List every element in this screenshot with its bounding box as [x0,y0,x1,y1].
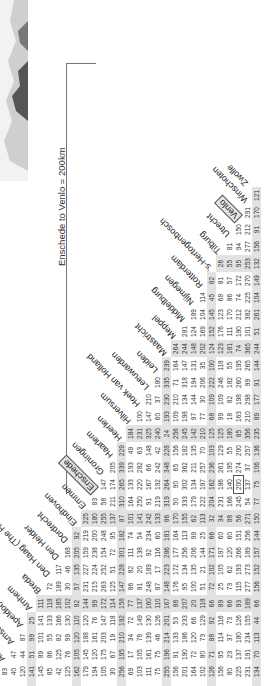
distance-cell: 149 [135,612,144,629]
distance-cell: 101 [243,323,252,340]
distance-cell: 318 [180,374,189,391]
distance-cell: 44 [18,646,27,663]
distance-cell: 141 [135,510,144,527]
distance-cell: 17 [126,646,135,663]
distance-cell: 162 [72,663,81,680]
distance-cell: 99 [216,408,225,425]
distance-cell: 103 [207,442,216,459]
distance-cell: 30 [63,578,72,595]
distance-cell: 147 [117,578,126,595]
distance-cell: 180 [234,629,243,646]
distance-cell: 129 [198,612,207,629]
distance-cell: 106 [252,459,261,476]
distance-cell: 55 [225,357,234,374]
distance-cell: 89 [216,595,225,612]
distance-cell: 88 [225,510,234,527]
distance-cell: 189 [243,544,252,561]
distance-cell: 105 [135,646,144,663]
distance-cell: 242 [144,510,153,527]
distance-cell: 235 [252,425,261,442]
distance-cell: 80 [198,646,207,663]
distance-cell: 172 [171,561,180,578]
distance-cell: 72 [108,544,117,561]
distance-cell: 182 [180,442,189,459]
distance-cell: 291 [243,204,252,221]
distance-cell: 81 [216,272,225,289]
distance-cell: 233 [180,612,189,629]
distance-cell: 203 [99,629,108,646]
distance-cell: 177 [252,391,261,408]
distance-cell: 20 [135,561,144,578]
distance-cell: 160 [144,595,153,612]
distance-cell: 180 [90,510,99,527]
distance-cell: 137 [243,476,252,493]
distance-cell: 82 [207,272,216,289]
distance-cell: 120 [225,544,234,561]
distance-cell: 71 [207,646,216,663]
distance-cell: 248 [99,527,108,544]
distance-cell: 156 [216,663,225,680]
distance-cell: 225 [81,510,90,527]
distance-cell: 99 [189,527,198,544]
distance-cell: 99 [90,595,99,612]
distance-cell: 257 [198,459,207,476]
distance-cell: 211 [108,493,117,510]
distance-cell: 97 [189,408,198,425]
distance-cell: 154 [99,544,108,561]
distance-cell: 192 [117,612,126,629]
distance-cell: 175 [99,646,108,663]
distance-cell: 65 [171,459,180,476]
distance-cell: 189 [144,561,153,578]
distance-cell: 114 [216,629,225,646]
distance-cell: 120 [189,629,198,646]
distance-cell: 131 [189,357,198,374]
distance-cell: 186 [180,629,189,646]
distance-cell: 148 [162,578,171,595]
distance-cell: 55 [225,255,234,272]
distance-cell: 72 [189,646,198,663]
distance-cell: 120 [90,646,99,663]
distance-cell: 124 [207,340,216,357]
distance-cell: 100 [189,578,198,595]
distance-cell: 24 [162,425,171,442]
distance-cell: 60 [216,527,225,544]
distance-cell: 271 [243,510,252,527]
distance-cell: 109 [171,408,180,425]
distance-cell: 231 [81,578,90,595]
distance-cell: 193 [234,561,243,578]
distance-cell: 265 [243,357,252,374]
distance-cell: 156 [252,578,261,595]
distance-cell: 242 [153,459,162,476]
distance-cell: 21 [198,561,207,578]
distance-cell: 152 [207,323,216,340]
distance-cell: 51 [108,561,117,578]
distance-cell: 189 [189,306,198,323]
distance-cell: 67 [108,646,117,663]
distance-cell: 176 [216,323,225,340]
distance-cell: 225 [234,663,243,680]
distance-cell: 103 [135,663,144,680]
distance-cell: 149 [252,272,261,289]
distance-cell: 155 [180,510,189,527]
distance-cell: 219 [153,493,162,510]
distance-cell: 57 [72,578,81,595]
distance-cell: 66 [207,527,216,544]
distance-cell: 17 [153,561,162,578]
distance-cell: 81 [135,578,144,595]
distance-cell: 277 [243,238,252,255]
distance-cell: 93 [234,595,243,612]
distance-cell: 114 [108,595,117,612]
distance-cell: 248 [144,578,153,595]
distance-cell: 46 [63,561,72,578]
distance-cell: 118 [45,595,54,612]
distance-cell: 111 [126,544,135,561]
distance-cell: 83 [0,663,9,680]
distance-cell: 229 [117,442,126,459]
distance-cell: 156 [252,238,261,255]
distance-cell: 53 [171,612,180,629]
distance-cell: 194 [90,663,99,680]
distance-cell: 200 [90,527,99,544]
distance-cell: 196 [162,646,171,663]
distance-cell: 145 [81,646,90,663]
distance-cell: 161 [144,646,153,663]
